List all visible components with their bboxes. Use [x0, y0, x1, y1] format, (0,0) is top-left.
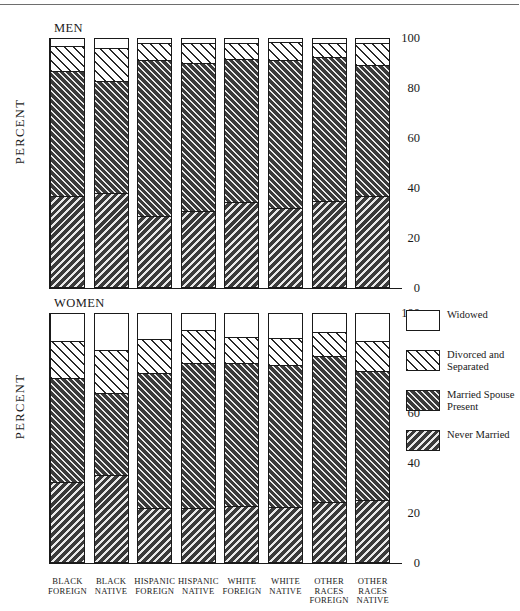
- bar-segment-never: [137, 508, 172, 563]
- bar-segment-divorced: [50, 341, 85, 379]
- legend-label-divorced-line1: Divorced and: [447, 349, 504, 360]
- bar-segment-married: [312, 57, 347, 201]
- bar-segment-divorced: [94, 48, 129, 81]
- x-axis-label-black-native: BLACKNATIVE: [88, 577, 134, 596]
- bar-segment-never: [50, 196, 85, 288]
- bar-segment-divorced: [94, 350, 129, 393]
- legend-label-never: Never Married: [447, 429, 520, 441]
- legend-label-widowed: Widowed: [447, 309, 520, 321]
- bar-segment-divorced: [50, 46, 85, 71]
- bar-segment-widowed: [355, 313, 390, 341]
- legend-swatch-widowed-icon: [406, 310, 440, 331]
- bar-segment-married: [268, 60, 303, 208]
- bar-women-white-native[interactable]: [268, 313, 303, 563]
- bar-segment-divorced: [137, 339, 172, 374]
- legend-label-married-line2: Present: [447, 401, 478, 412]
- y-axis-label-men: PERCENT: [13, 57, 28, 207]
- legend-swatch-married-icon: [406, 390, 440, 411]
- bar-segment-divorced: [312, 332, 347, 357]
- chart-panel-men: MEN PERCENT 100 80 60 40 20 0: [0, 14, 420, 299]
- bar-women-black-native[interactable]: [94, 313, 129, 563]
- bar-men-other-races-foreign[interactable]: [312, 38, 347, 288]
- bar-women-hispanic-foreign[interactable]: [137, 313, 172, 563]
- bar-men-white-native[interactable]: [268, 38, 303, 288]
- x-axis-label-line-2: FOREIGN: [45, 587, 91, 597]
- bar-segment-married: [50, 71, 85, 197]
- bar-segment-never: [224, 202, 259, 288]
- bar-segment-married: [137, 373, 172, 508]
- x-axis-label-hispanic-foreign: HISPANICFOREIGN: [132, 577, 178, 596]
- bar-segment-never: [94, 475, 129, 563]
- legend-label-married-line1: Married Spouse: [447, 389, 514, 400]
- x-axis-label-white-foreign: WHITEFOREIGN: [219, 577, 265, 596]
- x-axis-label-line-2: FOREIGN: [132, 587, 178, 597]
- bar-segment-widowed: [50, 313, 85, 341]
- bar-segment-married: [355, 65, 390, 196]
- plot-area-men: [50, 38, 402, 288]
- bar-segment-married: [355, 371, 390, 500]
- bar-segment-divorced: [268, 42, 303, 60]
- legend-row-divorced[interactable]: Divorced and Separated: [406, 350, 520, 376]
- bar-segment-never: [181, 508, 216, 564]
- legend-label-married: Married Spouse Present: [447, 389, 520, 412]
- bar-segment-widowed: [181, 313, 216, 330]
- plot-area-women: [50, 313, 402, 563]
- legend-swatch-never-icon: [406, 430, 440, 451]
- bar-segment-married: [224, 363, 259, 506]
- x-axis-label-line-2: NATIVE: [88, 587, 134, 597]
- panel-title-women: WOMEN: [54, 296, 105, 311]
- bar-women-hispanic-native[interactable]: [181, 313, 216, 563]
- bar-segment-widowed: [224, 38, 259, 43]
- bar-segment-widowed: [137, 38, 172, 43]
- bar-women-white-foreign[interactable]: [224, 313, 259, 563]
- bar-segment-widowed: [137, 313, 172, 339]
- bar-segment-married: [224, 59, 259, 203]
- bar-men-black-native[interactable]: [94, 38, 129, 288]
- bar-segment-widowed: [224, 313, 259, 337]
- bar-segment-never: [268, 507, 303, 563]
- bar-women-other-races-foreign[interactable]: [312, 313, 347, 563]
- bar-segment-widowed: [94, 38, 129, 48]
- bar-men-black-foreign[interactable]: [50, 38, 85, 288]
- bar-segment-married: [50, 378, 85, 482]
- bar-women-other-races-native[interactable]: [355, 313, 390, 563]
- bar-men-hispanic-foreign[interactable]: [137, 38, 172, 288]
- bar-segment-divorced: [355, 341, 390, 372]
- bar-segment-widowed: [181, 38, 216, 43]
- chart-panel-women: WOMEN PERCENT 100 80 60 40 20 0: [0, 289, 420, 574]
- legend-row-never[interactable]: Never Married: [406, 430, 520, 456]
- x-axis-label-line-3: NATIVE: [350, 596, 396, 606]
- bar-segment-never: [94, 193, 129, 288]
- bar-segment-never: [137, 216, 172, 289]
- bar-segment-married: [137, 60, 172, 216]
- y-axis-label-women: PERCENT: [13, 332, 28, 482]
- bar-women-black-foreign[interactable]: [50, 313, 85, 563]
- bar-segment-divorced: [268, 338, 303, 365]
- bar-segment-divorced: [137, 43, 172, 60]
- bar-men-other-races-native[interactable]: [355, 38, 390, 288]
- legend-row-married[interactable]: Married Spouse Present: [406, 390, 520, 416]
- bar-segment-divorced: [224, 337, 259, 363]
- bar-segment-never: [50, 482, 85, 563]
- bar-segment-never: [224, 506, 259, 563]
- legend-row-widowed[interactable]: Widowed: [406, 310, 520, 336]
- x-axis-baseline-women: [49, 563, 402, 564]
- bar-segment-divorced: [312, 43, 347, 57]
- bar-segment-married: [181, 63, 216, 212]
- x-axis-label-other-races-foreign: OTHERRACESFOREIGN: [306, 577, 352, 606]
- bar-segment-widowed: [355, 38, 390, 43]
- bar-segment-married: [268, 365, 303, 507]
- bar-men-hispanic-native[interactable]: [181, 38, 216, 288]
- legend-swatch-divorced-icon: [406, 350, 440, 371]
- x-axis-label-black-foreign: BLACKFOREIGN: [45, 577, 91, 596]
- panel-title-men: MEN: [54, 21, 83, 36]
- x-axis-label-line-2: NATIVE: [175, 587, 221, 597]
- x-axis-label-hispanic-native: HISPANICNATIVE: [175, 577, 221, 596]
- bar-segment-married: [94, 81, 129, 194]
- x-axis-label-line-2: FOREIGN: [219, 587, 265, 597]
- bar-segment-never: [181, 211, 216, 288]
- bar-segment-widowed: [268, 313, 303, 338]
- bar-segment-married: [312, 356, 347, 502]
- bar-men-white-foreign[interactable]: [224, 38, 259, 288]
- x-axis-label-other-races-native: OTHERRACESNATIVE: [350, 577, 396, 606]
